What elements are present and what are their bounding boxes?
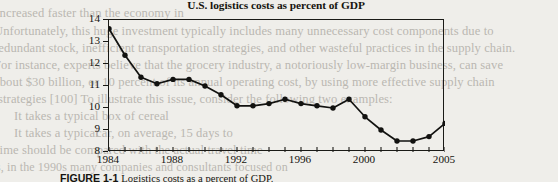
data-point-1999 bbox=[346, 97, 351, 102]
data-point-1989 bbox=[186, 77, 191, 82]
data-point-2000 bbox=[362, 114, 367, 119]
x-axis-label-1984: 1984 bbox=[97, 153, 119, 165]
data-point-2003 bbox=[410, 138, 415, 143]
x-axis-label-2005: 2005 bbox=[433, 153, 455, 165]
y-axis-tick-8 bbox=[103, 151, 108, 152]
x-axis-label-1988: 1988 bbox=[161, 153, 183, 165]
figure-caption: FIGURE 1-1 Logistics costs as a percent … bbox=[60, 172, 273, 182]
x-axis-label-2000: 2000 bbox=[353, 153, 375, 165]
data-point-2002 bbox=[394, 138, 399, 143]
y-axis-label-14: 14 bbox=[60, 12, 100, 24]
line-chart-svg bbox=[109, 20, 445, 152]
plot-area bbox=[108, 19, 444, 151]
y-axis-label-9: 9 bbox=[60, 122, 100, 134]
x-axis-label-1996: 1996 bbox=[289, 153, 311, 165]
x-axis-label-1992: 1992 bbox=[225, 153, 247, 165]
data-point-1995 bbox=[282, 97, 287, 102]
data-point-1998 bbox=[330, 105, 335, 110]
y-axis-label-13: 13 bbox=[60, 34, 100, 46]
y-axis-label-8: 8 bbox=[60, 144, 100, 156]
data-point-1996 bbox=[298, 101, 303, 106]
data-point-1985 bbox=[122, 53, 127, 58]
chart-title: U.S. logistics costs as percent of GDP bbox=[108, 0, 444, 11]
figure-caption-label: FIGURE 1-1 bbox=[60, 172, 118, 182]
figure-container: U.S. logistics costs as percent of GDP 8… bbox=[0, 0, 558, 182]
data-point-2001 bbox=[378, 127, 383, 132]
data-point-1992 bbox=[234, 103, 239, 108]
data-point-1997 bbox=[314, 103, 319, 108]
y-axis-label-11: 11 bbox=[60, 78, 100, 90]
data-point-2004 bbox=[426, 134, 431, 139]
y-axis-label-12: 12 bbox=[60, 56, 100, 68]
data-point-1987 bbox=[154, 81, 159, 86]
data-point-markers bbox=[109, 26, 445, 144]
data-point-1994 bbox=[266, 101, 271, 106]
y-axis-label-10: 10 bbox=[60, 100, 100, 112]
data-point-1991 bbox=[218, 92, 223, 97]
data-point-1988 bbox=[170, 77, 175, 82]
data-point-1984 bbox=[109, 26, 112, 31]
x-axis-tick-marks bbox=[109, 147, 445, 152]
data-point-1986 bbox=[138, 75, 143, 80]
data-point-1993 bbox=[250, 103, 255, 108]
figure-caption-text: Logistics costs as a percent of GDP. bbox=[121, 173, 273, 182]
data-point-1990 bbox=[202, 83, 207, 88]
